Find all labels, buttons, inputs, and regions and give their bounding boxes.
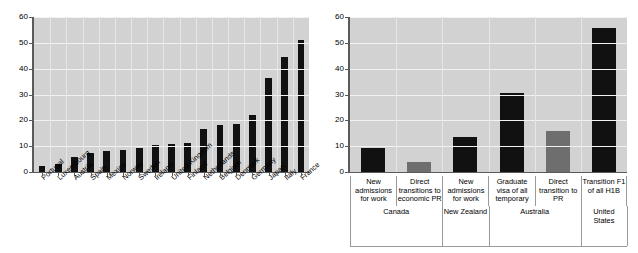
x-tick-mark (252, 173, 253, 176)
bar (361, 148, 385, 172)
x-tick-mark (139, 173, 140, 176)
gridline (34, 69, 309, 70)
x-tick-mark (74, 173, 75, 176)
x-tick-mark (172, 173, 173, 176)
y-tick-label: 30 (19, 91, 28, 99)
left-bar-chart: 0102030405060 PortugalLuxembourgAustriaS… (0, 0, 320, 253)
y-tick-mark (29, 17, 32, 18)
x-tick-mark (204, 173, 205, 176)
group-label: New Zealand (442, 206, 488, 246)
x-tick-mark (236, 173, 237, 176)
y-tick-label: 50 (335, 39, 344, 47)
y-tick-label: 0 (340, 168, 344, 176)
category-label-line: of all H1B (582, 187, 626, 196)
vertical-gridline (396, 17, 397, 172)
y-tick-label: 40 (335, 65, 344, 73)
y-tick-label: 20 (19, 116, 28, 124)
vertical-gridline (293, 17, 294, 172)
table-bottom-border (350, 246, 627, 247)
y-tick-mark (29, 120, 32, 121)
group-label-line: States (581, 217, 627, 226)
gridline (34, 120, 309, 121)
x-tick-mark (123, 173, 124, 176)
y-tick-label: 60 (335, 13, 344, 21)
y-tick-mark (345, 43, 348, 44)
group-label-line: Australia (488, 208, 580, 217)
right-group-labels: CanadaNew ZealandAustraliaUnitedStates (350, 206, 627, 246)
y-tick-mark (345, 120, 348, 121)
y-tick-mark (29, 146, 32, 147)
right-plot-area (350, 17, 627, 172)
y-tick-label: 10 (19, 142, 28, 150)
y-tick-label: 60 (19, 13, 28, 21)
y-tick-mark (345, 69, 348, 70)
category-label: Graduatevisa of alltemporary (488, 176, 534, 206)
vertical-gridline (147, 17, 148, 172)
vertical-gridline (581, 17, 582, 172)
x-tick-mark (301, 173, 302, 176)
x-tick-mark (58, 173, 59, 176)
x-tick-mark (188, 173, 189, 176)
y-tick-label: 50 (19, 39, 28, 47)
left-plot-area (34, 17, 309, 172)
category-label-line: temporary (489, 195, 534, 204)
vertical-gridline (131, 17, 132, 172)
group-label-line: New Zealand (442, 208, 488, 217)
gridline (34, 95, 309, 96)
group-label: Australia (488, 206, 580, 246)
x-tick-mark (285, 173, 286, 176)
bar (298, 40, 305, 172)
bar (453, 137, 477, 172)
group-separator (350, 206, 351, 246)
vertical-gridline (180, 17, 181, 172)
category-label-line: PR (536, 195, 581, 204)
y-tick-label: 10 (335, 142, 344, 150)
vertical-gridline (163, 17, 164, 172)
group-separator (627, 206, 628, 246)
left-y-axis-labels: 0102030405060 (8, 0, 28, 253)
y-tick-label: 30 (335, 91, 344, 99)
category-label: Directtransitions toeconomic PR (396, 176, 442, 206)
y-tick-mark (345, 95, 348, 96)
x-tick-mark (220, 173, 221, 176)
x-tick-mark (269, 173, 270, 176)
gridline (34, 43, 309, 44)
group-label: UnitedStates (581, 206, 627, 246)
bar (281, 57, 288, 172)
left-x-axis-labels: PortugalLuxembourgAustriaSpainMexicoNorw… (34, 176, 309, 246)
right-x-axis-line (348, 172, 627, 173)
vertical-gridline (489, 17, 490, 172)
y-tick-mark (29, 69, 32, 70)
bar (500, 93, 524, 172)
category-label: Newadmissionsfor work (350, 176, 396, 206)
bar (546, 131, 570, 172)
y-tick-mark (345, 172, 348, 173)
y-tick-mark (29, 172, 32, 173)
vertical-gridline (66, 17, 67, 172)
figure-two-bar-charts: 0102030405060 PortugalLuxembourgAustriaS… (0, 0, 638, 253)
x-tick-mark (91, 173, 92, 176)
gridline (34, 146, 309, 147)
right-bar-chart: 0102030405060 Newadmissionsfor workDirec… (320, 0, 638, 253)
vertical-gridline (535, 17, 536, 172)
y-tick-mark (345, 17, 348, 18)
y-tick-label: 20 (335, 116, 344, 124)
category-label-line: for work (443, 195, 488, 204)
group-label-line: Canada (350, 208, 442, 217)
vertical-gridline (99, 17, 100, 172)
y-tick-label: 0 (24, 168, 28, 176)
x-tick-mark (107, 173, 108, 176)
x-tick-mark (155, 173, 156, 176)
category-label: Directtransition toPR (535, 176, 581, 206)
bar (407, 162, 431, 172)
vertical-gridline (115, 17, 116, 172)
vertical-gridline (442, 17, 443, 172)
vertical-gridline (244, 17, 245, 172)
right-category-labels: Newadmissionsfor workDirecttransitions t… (350, 176, 627, 206)
bar (592, 28, 616, 172)
category-label-line: for work (351, 195, 396, 204)
vertical-gridline (50, 17, 51, 172)
right-y-axis-labels: 0102030405060 (324, 0, 344, 253)
category-label-line: economic PR (397, 195, 442, 204)
category-label: Transition F1of all H1B (581, 176, 627, 206)
